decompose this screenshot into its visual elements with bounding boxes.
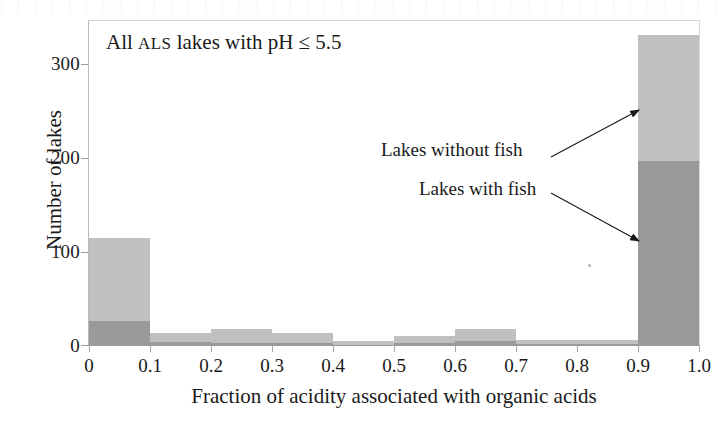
bar-segment-without-fish — [638, 35, 699, 161]
bar-bin-0-0.1 — [89, 238, 150, 346]
bar-bin-0.6-0.7 — [455, 329, 516, 346]
bar-bin-0.7-0.8 — [516, 340, 577, 346]
bar-segment-with-fish — [394, 343, 455, 346]
x-tick-label-0.5: 0.5 — [364, 355, 424, 377]
x-tick-label-0.7: 0.7 — [486, 355, 546, 377]
bar-segment-with-fish — [455, 341, 516, 346]
bar-segment-without-fish — [394, 336, 455, 343]
bar-segment-without-fish — [211, 329, 272, 343]
annotation-lakes-without-fish: Lakes without fish — [381, 139, 522, 161]
bar-segment-with-fish — [577, 344, 638, 346]
x-tick-mark-0.3 — [272, 346, 273, 352]
x-tick-mark-0.6 — [455, 346, 456, 352]
bar-bin-0.9-1.0 — [638, 35, 699, 346]
x-tick-label-0.1: 0.1 — [120, 355, 180, 377]
bar-segment-with-fish — [333, 345, 394, 346]
scan-speck — [588, 264, 591, 267]
bar-segment-with-fish — [89, 321, 150, 346]
bar-bin-0.4-0.5 — [333, 341, 394, 346]
x-tick-label-0.4: 0.4 — [303, 355, 363, 377]
y-tick-mark-0 — [81, 345, 88, 346]
chart-title-prefix: All — [106, 30, 138, 54]
bar-segment-with-fish — [638, 161, 699, 346]
bar-bin-0.5-0.6 — [394, 336, 455, 346]
x-tick-label-0.8: 0.8 — [547, 355, 607, 377]
bar-segment-with-fish — [272, 343, 333, 346]
y-tick-mark-100 — [81, 252, 88, 253]
bar-segment-with-fish — [516, 344, 577, 346]
y-tick-mark-300 — [81, 64, 88, 65]
x-tick-mark-0.8 — [577, 346, 578, 352]
y-axis-title: Number of lakes — [42, 30, 66, 330]
y-tick-mark-200 — [81, 158, 88, 159]
x-tick-mark-0 — [89, 346, 90, 352]
x-tick-mark-0.4 — [333, 346, 334, 352]
x-tick-label-0.9: 0.9 — [608, 355, 668, 377]
chart-title-smallcaps-als: ALS — [138, 34, 171, 53]
x-tick-label-1.0: 1.0 — [669, 355, 726, 377]
plot-area — [89, 21, 700, 346]
x-tick-mark-1.0 — [699, 346, 700, 352]
bar-bin-0.8-0.9 — [577, 340, 638, 346]
bar-bin-0.2-0.3 — [211, 329, 272, 346]
bar-segment-without-fish — [455, 329, 516, 341]
annotation-lakes-with-fish: Lakes with fish — [419, 178, 536, 200]
x-axis-title: Fraction of acidity associated with orga… — [88, 384, 700, 408]
x-tick-label-0.2: 0.2 — [181, 355, 241, 377]
chart-title-suffix: lakes with pH ≤ 5.5 — [171, 30, 341, 54]
bar-segment-without-fish — [89, 238, 150, 321]
histogram-figure: 300 200 100 0 Number of lakes — [0, 0, 726, 437]
bar-segment-without-fish — [272, 333, 333, 343]
x-tick-mark-0.1 — [150, 346, 151, 352]
chart-title: All ALS lakes with pH ≤ 5.5 — [106, 30, 342, 56]
x-tick-label-0.6: 0.6 — [425, 355, 485, 377]
x-tick-label-0: 0 — [59, 355, 119, 377]
x-tick-label-0.3: 0.3 — [242, 355, 302, 377]
x-tick-mark-0.7 — [516, 346, 517, 352]
x-tick-mark-0.2 — [211, 346, 212, 352]
bar-bin-0.3-0.4 — [272, 333, 333, 346]
x-tick-mark-0.5 — [394, 346, 395, 352]
bar-segment-with-fish — [150, 342, 211, 346]
bar-segment-without-fish — [150, 333, 211, 342]
bar-segment-with-fish — [211, 343, 272, 346]
bar-bin-0.1-0.2 — [150, 333, 211, 346]
x-tick-mark-0.9 — [638, 346, 639, 352]
y-tick-label-0: 0 — [20, 336, 80, 355]
